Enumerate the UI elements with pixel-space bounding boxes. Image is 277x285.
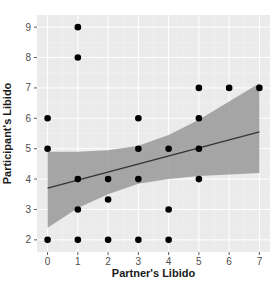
x-tick-label: 5	[196, 256, 202, 267]
y-tick-label: 4	[25, 174, 31, 185]
data-point	[105, 196, 112, 203]
x-tick-label: 7	[257, 256, 263, 267]
data-point	[226, 85, 233, 92]
x-tick-label: 1	[75, 256, 81, 267]
data-point	[75, 237, 82, 244]
scatter-chart: 01234567 23456789 Partner's Libido Parti…	[0, 0, 277, 285]
x-tick-label: 0	[45, 256, 51, 267]
x-tick-label: 4	[166, 256, 172, 267]
y-tick-label: 2	[25, 234, 31, 245]
data-point	[165, 145, 172, 152]
y-tick-label: 6	[25, 113, 31, 124]
y-tick-label: 8	[25, 52, 31, 63]
data-point	[165, 206, 172, 213]
y-tick-label: 3	[25, 204, 31, 215]
y-tick-label: 7	[25, 82, 31, 93]
data-point	[196, 176, 203, 183]
data-point	[105, 237, 112, 244]
data-point	[135, 115, 142, 122]
x-tick-label: 6	[226, 256, 232, 267]
data-point	[75, 54, 82, 61]
data-point	[135, 176, 142, 183]
data-point	[75, 206, 82, 213]
data-point	[44, 145, 51, 152]
y-axis-title: Participant's Libido	[1, 82, 13, 184]
x-axis-title: Partner's Libido	[112, 267, 196, 279]
data-point	[135, 145, 142, 152]
y-axis-ticks: 23456789	[25, 22, 37, 246]
data-point	[196, 85, 203, 92]
data-point	[105, 176, 112, 183]
x-axis-ticks: 01234567	[45, 252, 263, 267]
y-tick-label: 9	[25, 22, 31, 33]
data-point	[196, 145, 203, 152]
data-point	[44, 115, 51, 122]
data-point	[44, 237, 51, 244]
x-tick-label: 3	[136, 256, 142, 267]
data-point	[196, 115, 203, 122]
y-tick-label: 5	[25, 143, 31, 154]
data-point	[165, 237, 172, 244]
x-tick-label: 2	[105, 256, 111, 267]
data-point	[135, 237, 142, 244]
data-point	[75, 24, 82, 31]
data-point	[256, 85, 263, 92]
data-point	[75, 176, 82, 183]
